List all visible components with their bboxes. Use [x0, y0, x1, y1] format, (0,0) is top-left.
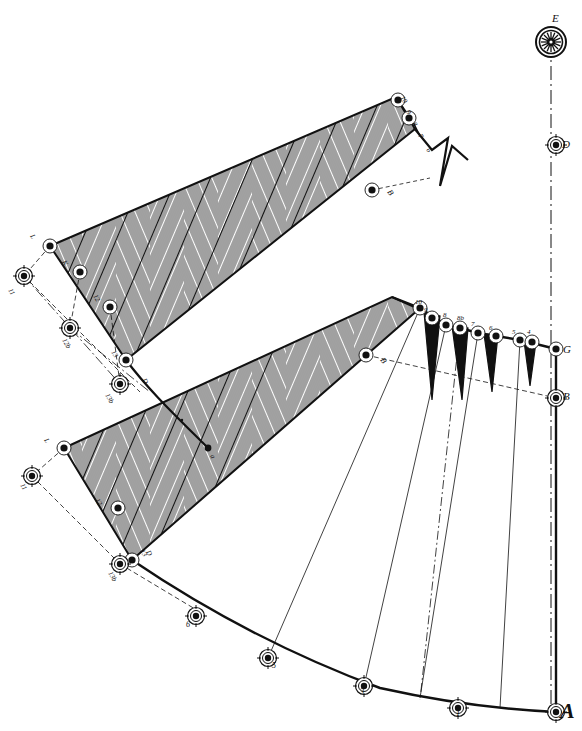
- label-5: 5: [512, 328, 516, 336]
- label-b: B: [563, 390, 570, 402]
- label-l: L: [28, 232, 37, 240]
- label-13b: 13b: [103, 392, 115, 406]
- node-marker: [73, 265, 87, 279]
- label-d: D: [561, 138, 570, 150]
- label-11: 11: [18, 482, 28, 492]
- label-b: B: [385, 188, 395, 197]
- label-a: A: [558, 698, 575, 723]
- upper-chevron-stripes: [0, 40, 456, 420]
- node-marker: [359, 348, 373, 362]
- label-8b: 8b: [457, 314, 465, 322]
- rosette-icon: [536, 27, 566, 57]
- label-g: G: [563, 343, 571, 355]
- target-node-marker: [59, 317, 81, 339]
- label-3: 3: [359, 687, 364, 696]
- node-marker: [57, 441, 71, 455]
- node-marker: [525, 335, 539, 349]
- label-l: L: [42, 436, 51, 444]
- label-6: 6: [186, 620, 190, 629]
- label-10: 10: [415, 298, 423, 306]
- label-b: B: [378, 356, 388, 365]
- label-e: E: [551, 12, 559, 24]
- node-marker: [111, 501, 125, 515]
- node-marker: [119, 353, 133, 367]
- label-7: 7: [471, 320, 475, 328]
- label-12b: 12b: [60, 337, 72, 351]
- label-5: 5: [272, 661, 276, 670]
- label-8: 8: [443, 311, 447, 319]
- target-node-marker: [109, 373, 131, 395]
- figure-svg: EDGBABB10987610988b7654LK12131112b13bDL1…: [0, 0, 582, 731]
- node-marker: [453, 321, 467, 335]
- label-11: 11: [6, 287, 16, 297]
- node-marker: [43, 239, 57, 253]
- label-9: 9: [424, 306, 428, 314]
- label-13: 13: [109, 349, 120, 359]
- node-marker: [549, 342, 563, 356]
- technical-drawing-canvas: EDGBABB10987610988b7654LK12131112b13bDL1…: [0, 0, 582, 731]
- node-marker: [103, 300, 117, 314]
- label-4: 4: [527, 328, 531, 336]
- node-marker: [439, 318, 453, 332]
- node-marker: [365, 183, 379, 197]
- node-marker: [471, 326, 485, 340]
- label-1: 1: [456, 709, 460, 718]
- label-6: 6: [489, 324, 493, 332]
